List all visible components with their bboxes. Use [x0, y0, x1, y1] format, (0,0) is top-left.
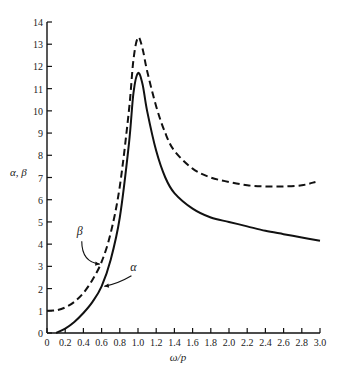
alpha-curve [56, 73, 320, 333]
x-tick-label: 1.2 [150, 337, 163, 348]
alpha-label: α [130, 260, 137, 274]
y-tick-label: 5 [38, 217, 43, 228]
y-tick-label: 4 [38, 239, 43, 250]
y-tick-label: 12 [33, 61, 43, 72]
x-tick-label: 1.8 [205, 337, 218, 348]
y-tick-label: 9 [38, 128, 43, 139]
y-tick-label: 14 [33, 17, 43, 28]
x-tick-label: 1.0 [132, 337, 145, 348]
x-tick-label: 0.6 [95, 337, 108, 348]
beta-curve [47, 37, 315, 311]
arrowhead-icon [104, 283, 109, 287]
beta-label: β [76, 224, 83, 238]
x-tick-label: 2.0 [223, 337, 236, 348]
y-tick-label: 3 [38, 261, 43, 272]
x-tick-label: 3.0 [314, 337, 327, 348]
y-tick-label: 10 [33, 106, 43, 117]
y-tick-label: 1 [38, 306, 43, 317]
y-tick-label: 0 [38, 328, 43, 339]
y-tick-label: 13 [33, 39, 43, 50]
x-tick-label: 0.8 [114, 337, 127, 348]
x-tick-label: 2.2 [241, 337, 254, 348]
curves [47, 37, 320, 333]
y-tick-label: 8 [38, 150, 43, 161]
x-tick-label: 0 [45, 337, 50, 348]
y-tick-label: 6 [38, 195, 43, 206]
chart: 0123456789101112131400.20.40.60.81.01.21… [0, 0, 347, 369]
annotation-arrow [82, 241, 100, 264]
x-tick-label: 2.4 [259, 337, 272, 348]
y-tick-label: 11 [33, 84, 43, 95]
x-axis-label: ω/p [170, 351, 187, 363]
x-tick-label: 2.8 [296, 337, 309, 348]
annotations: βα [76, 224, 138, 287]
y-tick-label: 2 [38, 284, 43, 295]
x-tick-label: 0.4 [77, 337, 90, 348]
y-axis-label: α, β [10, 166, 27, 178]
x-tick-label: 2.6 [277, 337, 290, 348]
x-tick-label: 0.2 [59, 337, 72, 348]
x-tick-label: 1.4 [168, 337, 181, 348]
y-tick-label: 7 [38, 173, 43, 184]
x-tick-label: 1.6 [186, 337, 199, 348]
